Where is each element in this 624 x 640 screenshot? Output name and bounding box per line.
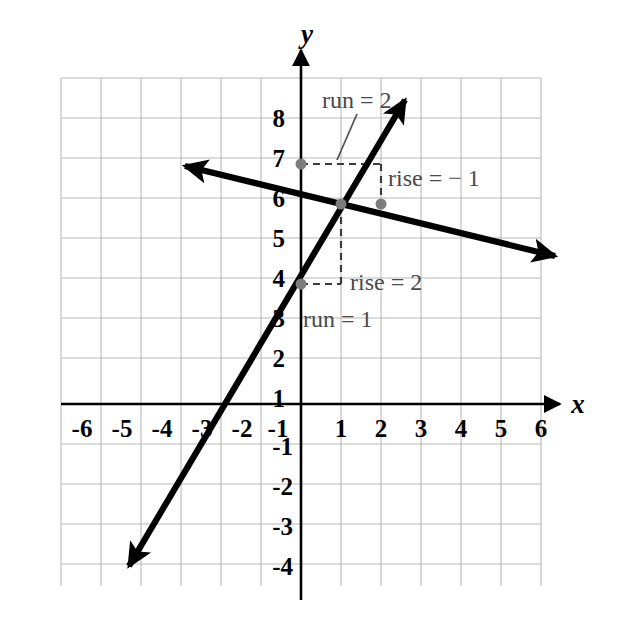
x-tick-label: 4	[455, 415, 468, 442]
x-tick-label: -4	[152, 415, 173, 442]
y-tick-label: -1	[272, 433, 293, 460]
y-tick-labels: 8 7 6 5 4 3 2 1 -1 -2 -3 -4	[272, 105, 293, 580]
y-tick-label: 5	[273, 225, 286, 252]
y-tick-label: -4	[272, 553, 293, 580]
y-tick-label: 1	[273, 385, 286, 412]
x-tick-label: 5	[495, 415, 508, 442]
coordinate-plane-graph: x y -6 -5 -4 -3 -2 -1 1 2 3 4 5 6 8 7 6 …	[0, 0, 624, 640]
y-tick-label: -2	[272, 473, 293, 500]
y-axis-label: y	[298, 19, 314, 49]
y-tick-label: 7	[273, 145, 286, 172]
x-tick-label: 3	[415, 415, 428, 442]
point-marker-0-7	[296, 159, 307, 170]
x-tick-label: -5	[112, 415, 133, 442]
annotation-rise-neg-1: rise = − 1	[388, 165, 480, 191]
y-tick-label: -3	[272, 513, 293, 540]
run-2-leader-line	[337, 114, 357, 160]
x-tick-labels: -6 -5 -4 -3 -2 -1 1 2 3 4 5 6	[72, 415, 548, 442]
x-tick-label: -6	[72, 415, 93, 442]
descending-line	[185, 166, 555, 256]
figure-root: x y -6 -5 -4 -3 -2 -1 1 2 3 4 5 6 8 7 6 …	[0, 0, 624, 640]
y-tick-label: 2	[273, 345, 286, 372]
annotation-run-1: run = 1	[303, 306, 373, 332]
x-axis-label: x	[570, 389, 585, 419]
point-marker-2-6	[376, 199, 387, 210]
ascending-line	[129, 100, 405, 566]
x-tick-label: 1	[335, 415, 348, 442]
x-tick-label: 2	[375, 415, 388, 442]
point-marker-1-5	[336, 199, 347, 210]
x-tick-label: 6	[535, 415, 548, 442]
annotation-run-2: run = 2	[322, 87, 392, 113]
y-tick-label: 4	[273, 265, 286, 292]
x-tick-label: -2	[232, 415, 253, 442]
annotation-rise-2: rise = 2	[350, 269, 422, 295]
point-marker-0-3	[296, 279, 307, 290]
y-tick-label: 8	[273, 105, 286, 132]
